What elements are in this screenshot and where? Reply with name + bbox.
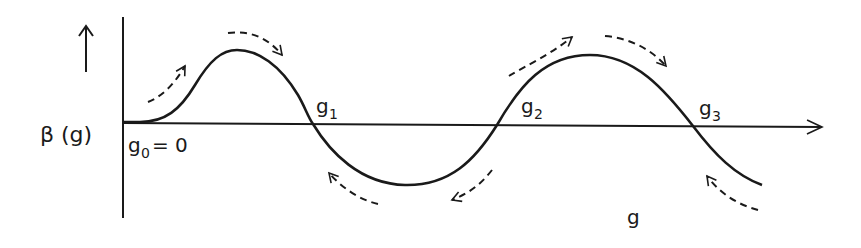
svg-text:2: 2 [534, 106, 543, 122]
flow-arrow-left-icon [452, 170, 492, 200]
svg-text:g: g [316, 94, 329, 118]
flow-arrow-right-icon [148, 66, 185, 102]
beta-curve [123, 50, 762, 185]
svg-text:g: g [521, 94, 534, 118]
up-arrow-icon [79, 26, 93, 72]
svg-text:1: 1 [329, 106, 338, 122]
svg-text:g: g [128, 133, 141, 157]
beta-function-diagram: β (g) g 0 = 0 g 1 g 2 g 3 g [0, 0, 861, 248]
fixed-point-g2: g 2 [521, 94, 543, 122]
svg-text:0: 0 [141, 145, 150, 161]
svg-text:3: 3 [712, 108, 721, 124]
fixed-point-g1: g 1 [316, 94, 338, 122]
y-axis-label: β (g) [40, 122, 92, 147]
fixed-point-g3: g 3 [699, 96, 721, 124]
x-axis-label: g [627, 205, 640, 229]
flow-arrow-right-icon [228, 32, 282, 55]
svg-text:= 0: = 0 [152, 133, 188, 157]
svg-text:g: g [699, 96, 712, 120]
fixed-point-g0: g 0 = 0 [128, 133, 188, 161]
flow-arrows [148, 32, 758, 210]
flow-arrow-right-icon [605, 36, 666, 66]
